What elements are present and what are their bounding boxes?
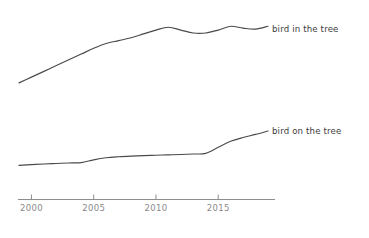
- x-axis-tick-label: 2005: [82, 203, 105, 213]
- x-axis-tick-label: 2015: [207, 203, 230, 213]
- chart-plot-area: 2000200520102015: [0, 0, 369, 238]
- line-chart: 2000200520102015 bird in the tree bird o…: [0, 0, 369, 238]
- series-line-bird-on-the-tree: [19, 131, 268, 165]
- x-axis-ticks: [31, 195, 218, 200]
- series-line-bird-in-the-tree: [19, 26, 268, 83]
- x-axis-tick-labels: 2000200520102015: [20, 203, 230, 213]
- series-label-bird-on-the-tree: bird on the tree: [272, 126, 341, 136]
- series-label-bird-in-the-tree: bird in the tree: [272, 24, 339, 34]
- x-axis-tick-label: 2000: [20, 203, 43, 213]
- x-axis-tick-label: 2010: [145, 203, 168, 213]
